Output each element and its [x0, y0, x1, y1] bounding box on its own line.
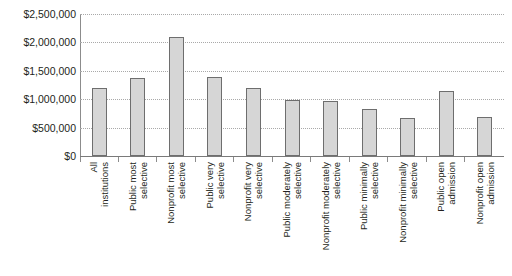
y-axis-tick-label: $2,500,000	[23, 9, 76, 20]
bar-slot	[350, 14, 389, 156]
bar-series	[80, 14, 504, 156]
bar[interactable]	[130, 78, 145, 156]
x-axis-category-label-line: admission	[446, 162, 457, 212]
x-axis-category-label-line: Nonprofit open	[474, 162, 485, 224]
x-axis-category-label: Public veryselective	[204, 162, 225, 208]
bar-slot	[157, 14, 196, 156]
x-axis-label-cell: Public openadmission	[427, 162, 466, 274]
y-axis-tick-label: $0	[64, 151, 76, 162]
x-axis-label-cell: Nonprofit veryselective	[234, 162, 273, 274]
x-axis-label-cell: Allinstitutions	[80, 162, 119, 274]
x-axis-category-label: Public mostselective	[127, 162, 148, 211]
bar[interactable]	[477, 117, 492, 156]
x-axis-category-label: Nonprofit moderatelyselective	[320, 162, 341, 250]
x-axis-label-cell: Public mostselective	[119, 162, 158, 274]
y-axis-tick-label: $2,000,000	[23, 37, 76, 48]
x-axis-category-label-line: selective	[176, 162, 187, 224]
x-axis-category-label-line: selective	[369, 162, 380, 230]
bar-slot	[196, 14, 235, 156]
x-axis-category-label-line: Nonprofit minimally	[397, 162, 408, 243]
bar-slot	[234, 14, 273, 156]
bar-chart: $2,500,000$2,000,000$1,500,000$1,000,000…	[0, 0, 512, 276]
x-axis-category-label-line: Public most	[127, 162, 138, 211]
x-axis-category-label: Public openadmission	[436, 162, 457, 212]
bar[interactable]	[207, 77, 222, 156]
x-axis-label-cell: Public veryselective	[196, 162, 235, 274]
x-axis-label-cell: Public moderatelyselective	[273, 162, 312, 274]
x-axis-category-label: Public moderatelyselective	[282, 162, 303, 238]
bar-slot	[388, 14, 427, 156]
x-axis-label-cell: Nonprofit minimallyselective	[388, 162, 427, 274]
bar[interactable]	[439, 91, 454, 156]
y-axis-tick-label: $500,000	[32, 122, 76, 133]
x-axis-category-label-line: institutions	[99, 162, 110, 207]
x-axis-category-label-line: selective	[138, 162, 149, 211]
plot-area	[80, 14, 504, 156]
bar[interactable]	[246, 88, 261, 156]
x-axis-category-label-line: Public very	[204, 162, 215, 208]
x-axis-category-label-line: Nonprofit moderately	[320, 162, 331, 250]
bar-slot	[119, 14, 158, 156]
bar[interactable]	[285, 100, 300, 156]
bar-slot	[427, 14, 466, 156]
x-axis-category-label-line: selective	[331, 162, 342, 250]
x-axis-category-label-line: selective	[253, 162, 264, 221]
x-axis-label-cell: Public minimallyselective	[350, 162, 389, 274]
x-axis-category-label-line: selective	[408, 162, 419, 243]
x-axis-category-label: Nonprofit minimallyselective	[397, 162, 418, 243]
x-axis-category-label: Nonprofit openadmission	[474, 162, 495, 224]
x-axis-category-label: Nonprofit mostselective	[166, 162, 187, 224]
bar-slot	[465, 14, 504, 156]
bar[interactable]	[400, 118, 415, 156]
bar[interactable]	[362, 109, 377, 156]
bar-slot	[311, 14, 350, 156]
x-axis-label-cell: Nonprofit moderatelyselective	[311, 162, 350, 274]
x-axis-category-label: Allinstitutions	[89, 162, 110, 207]
bar-slot	[80, 14, 119, 156]
y-axis-tick-labels: $2,500,000$2,000,000$1,500,000$1,000,000…	[0, 14, 76, 156]
x-axis-category-label-line: selective	[292, 162, 303, 238]
x-axis-category-label-line: Public moderately	[282, 162, 293, 238]
bar-slot	[273, 14, 312, 156]
y-axis-tick-label: $1,000,000	[23, 94, 76, 105]
x-axis-category-labels: AllinstitutionsPublic mostselectiveNonpr…	[80, 162, 504, 274]
bar[interactable]	[323, 101, 338, 156]
x-axis-category-label: Nonprofit veryselective	[243, 162, 264, 221]
bar[interactable]	[169, 37, 184, 156]
x-axis-category-label: Public minimallyselective	[359, 162, 380, 230]
x-axis-category-label-line: admission	[485, 162, 496, 224]
x-axis-category-label-line: selective	[215, 162, 226, 208]
bar[interactable]	[92, 88, 107, 156]
y-axis-tick-label: $1,500,000	[23, 66, 76, 77]
x-axis-label-cell: Nonprofit mostselective	[157, 162, 196, 274]
x-axis-label-cell: Nonprofit openadmission	[465, 162, 504, 274]
